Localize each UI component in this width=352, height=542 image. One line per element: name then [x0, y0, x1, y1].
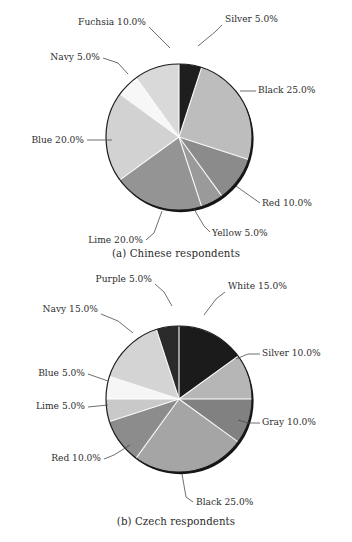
leader-line-red — [104, 445, 130, 459]
slice-label-blue: Blue 5.0% — [38, 368, 85, 378]
caption-czech-respondents: (b) Czech respondents — [0, 516, 352, 527]
leader-line-yellow — [194, 209, 210, 232]
slice-label-red: Red 10.0% — [262, 198, 312, 208]
leader-line-black — [182, 474, 193, 502]
leader-line-lime — [88, 405, 108, 407]
leader-line-lime — [146, 211, 162, 240]
leader-line-blue — [88, 374, 108, 381]
caption-chinese-respondents: (a) Chinese respondents — [0, 248, 352, 259]
slice-label-purple: Purple 5.0% — [96, 274, 153, 284]
leader-line-white — [204, 292, 225, 315]
slice-label-black: Black 25.0% — [196, 497, 254, 507]
slice-label-black: Black 25.0% — [258, 85, 316, 95]
slice-label-lime: Lime 5.0% — [36, 401, 85, 411]
slice-label-navy: Navy 15.0% — [43, 304, 99, 314]
leader-line-fuchsia — [149, 27, 170, 48]
leader-line-silver — [198, 25, 222, 46]
slice-label-lime: Lime 20.0% — [88, 235, 143, 245]
leader-line-red — [236, 186, 260, 203]
slice-label-silver: Silver 5.0% — [225, 14, 278, 24]
slice-label-white: White 15.0% — [228, 281, 287, 291]
slice-label-gray: Gray 10.0% — [262, 417, 316, 427]
pie-chart-czech-respondents: White 15.0%Silver 10.0%Gray 10.0%Black 2… — [0, 262, 352, 542]
slice-label-blue: Blue 20.0% — [31, 135, 84, 145]
leader-line-navy — [103, 58, 128, 74]
leader-line-navy — [101, 314, 133, 333]
pie-chart-figure: Silver 5.0%Black 25.0%Red 10.0%Yellow 5.… — [0, 0, 352, 542]
slice-label-silver: Silver 10.0% — [262, 348, 321, 358]
slice-label-red: Red 10.0% — [51, 453, 101, 463]
pie-chart-chinese-respondents: Silver 5.0%Black 25.0%Red 10.0%Yellow 5.… — [0, 0, 352, 262]
slice-label-navy: Navy 5.0% — [50, 52, 100, 62]
leader-line-purple — [155, 284, 172, 306]
slice-label-yellow: Yellow 5.0% — [211, 228, 268, 238]
slice-label-fuchsia: Fuchsia 10.0% — [78, 17, 146, 27]
